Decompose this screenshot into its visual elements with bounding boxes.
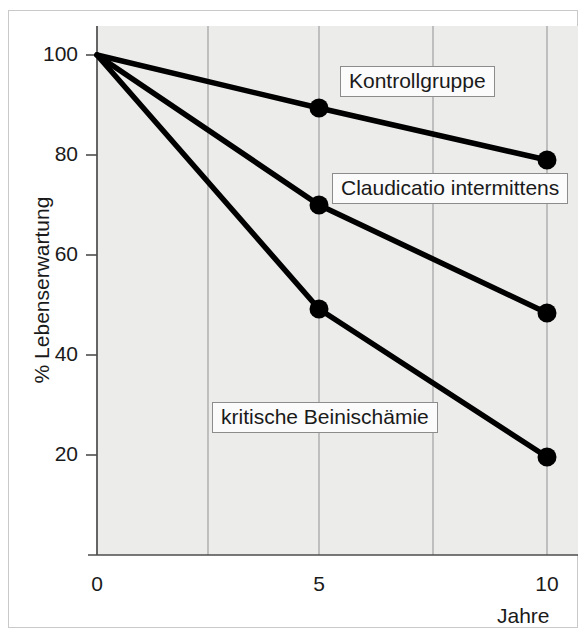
y-tick-label-100: 100 bbox=[8, 42, 78, 66]
data-point-kontrollgruppe-10 bbox=[538, 151, 557, 170]
data-point-kritische-5 bbox=[310, 300, 329, 319]
y-tick-label-20: 20 bbox=[8, 442, 78, 466]
x-axis-title: Jahre bbox=[497, 604, 550, 628]
chart-page: 100 80 60 40 20 0 5 10 % Lebenserwartung… bbox=[0, 0, 588, 638]
x-tick-label-10: 10 bbox=[517, 572, 577, 596]
line-chart-canvas bbox=[0, 0, 588, 638]
data-point-kritische-10 bbox=[538, 448, 557, 467]
data-point-claudicatio-10 bbox=[538, 304, 557, 323]
x-tick-label-0: 0 bbox=[67, 572, 127, 596]
series-label-claudicatio-intermittens: Claudicatio intermittens bbox=[332, 173, 568, 204]
data-point-claudicatio-5 bbox=[310, 196, 329, 215]
series-label-kontrollgruppe: Kontrollgruppe bbox=[340, 66, 495, 97]
data-point-kontrollgruppe-5 bbox=[310, 99, 329, 118]
series-label-kritische-beinischaemie: kritische Beinischämie bbox=[212, 402, 438, 433]
x-tick-label-5: 5 bbox=[289, 572, 349, 596]
y-tick-label-80: 80 bbox=[8, 142, 78, 166]
y-axis-title: % Lebenserwartung bbox=[30, 170, 54, 410]
y-axis-ticks bbox=[86, 55, 97, 455]
